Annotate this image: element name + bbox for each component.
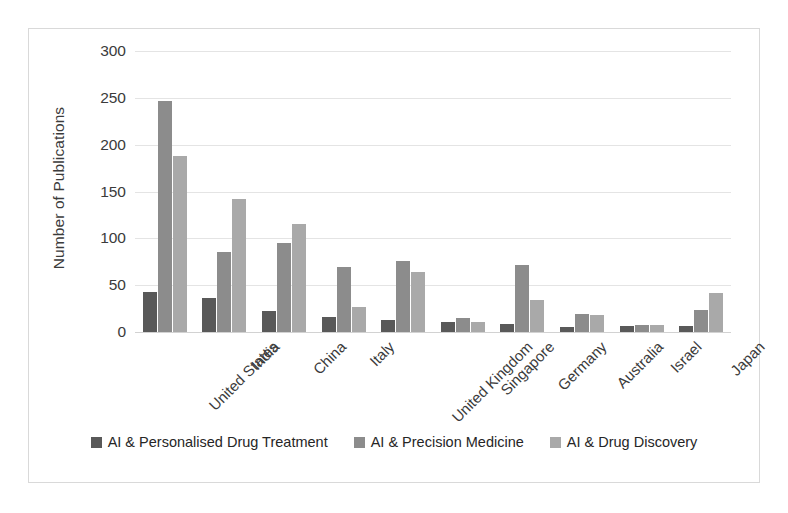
x-axis-tick-labels: United StatesIndiaChinaItalyUnited Kingd…	[135, 332, 731, 432]
bar	[352, 307, 366, 332]
bar	[292, 224, 306, 332]
legend-swatch-icon	[354, 437, 365, 448]
bar	[232, 199, 246, 332]
bar	[709, 293, 723, 332]
bar-group	[493, 51, 553, 332]
bar	[650, 325, 664, 332]
bar	[575, 314, 589, 332]
y-tick-label-250: 250	[100, 89, 126, 107]
y-tick-label-100: 100	[100, 229, 126, 247]
bar-group	[671, 51, 731, 332]
x-tick-label: Israel	[666, 338, 704, 376]
x-tick-label: Japan	[727, 338, 768, 379]
bar-group	[314, 51, 374, 332]
bar-group	[552, 51, 612, 332]
legend-item[interactable]: AI & Personalised Drug Treatment	[91, 434, 328, 450]
y-tick-label-200: 200	[100, 136, 126, 154]
bar	[456, 318, 470, 332]
bar	[337, 267, 351, 332]
legend-label: AI & Drug Discovery	[567, 434, 698, 450]
bar	[590, 315, 604, 332]
bar-group	[254, 51, 314, 332]
y-axis-title: Number of Publications	[50, 78, 68, 298]
bar	[530, 300, 544, 332]
bar	[441, 322, 455, 332]
plot-area: 050100150200250300	[135, 51, 731, 332]
y-tick-label-300: 300	[100, 42, 126, 60]
x-tick-label: Australia	[613, 338, 666, 391]
bar	[500, 324, 514, 332]
bar	[322, 317, 336, 332]
y-tick-label-0: 0	[117, 323, 126, 341]
bar	[143, 292, 157, 332]
bar	[396, 261, 410, 332]
legend-item[interactable]: AI & Drug Discovery	[550, 434, 698, 450]
bar	[471, 322, 485, 332]
bar-group	[612, 51, 672, 332]
chart-legend: AI & Personalised Drug TreatmentAI & Pre…	[29, 434, 759, 450]
bar-group	[373, 51, 433, 332]
chart-figure: Number of Publications 05010015020025030…	[28, 28, 760, 483]
bar-group	[195, 51, 255, 332]
x-tick-label: China	[309, 338, 349, 378]
x-tick-label: Italy	[366, 338, 397, 369]
bar-group	[135, 51, 195, 332]
bar	[277, 243, 291, 332]
bar-series-container	[135, 51, 731, 332]
bar	[262, 311, 276, 332]
legend-label: AI & Precision Medicine	[371, 434, 524, 450]
bar	[217, 252, 231, 332]
bar	[158, 101, 172, 332]
bar	[202, 298, 216, 332]
legend-item[interactable]: AI & Precision Medicine	[354, 434, 524, 450]
bar-group	[433, 51, 493, 332]
bar	[694, 310, 708, 332]
y-tick-label-150: 150	[100, 183, 126, 201]
bar	[515, 265, 529, 332]
legend-swatch-icon	[91, 437, 102, 448]
legend-swatch-icon	[550, 437, 561, 448]
bar	[635, 325, 649, 332]
x-tick-label: Germany	[554, 338, 610, 394]
bar	[173, 156, 187, 332]
legend-label: AI & Personalised Drug Treatment	[108, 434, 328, 450]
y-tick-label-50: 50	[109, 276, 126, 294]
bar	[411, 272, 425, 332]
bar	[381, 320, 395, 332]
